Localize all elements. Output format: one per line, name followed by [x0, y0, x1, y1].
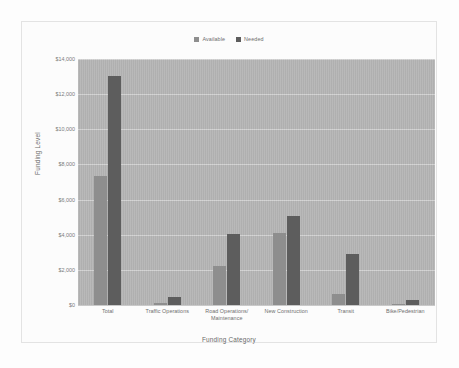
- bar-group: [197, 59, 257, 305]
- x-axis-tick-label: New Construction: [257, 308, 317, 323]
- bar-needed: [108, 76, 121, 305]
- bar-available: [213, 266, 226, 305]
- legend-label-available: Available: [202, 36, 225, 42]
- legend-entry-needed: Needed: [236, 36, 263, 42]
- y-axis-tick-labels: $0$2,000$4,000$6,000$8,000$10,000$12,000…: [22, 59, 75, 305]
- bar-group: [376, 59, 436, 305]
- bar-group: [78, 59, 138, 305]
- x-axis-tick-label: Transit: [316, 308, 376, 323]
- bar-needed: [346, 254, 359, 305]
- y-axis-tick-label: $4,000: [27, 232, 75, 238]
- x-axis-tick-label: Bike/Pedestrian: [376, 308, 436, 323]
- y-axis-tick-label: $10,000: [27, 126, 75, 132]
- y-axis-tick-label: $0: [27, 302, 75, 308]
- x-axis-tick-labels: TotalTraffic OperationsRoad Operations/ …: [78, 308, 435, 323]
- x-axis-tick-label: Total: [78, 308, 138, 323]
- legend-label-needed: Needed: [244, 36, 263, 42]
- y-axis-tick-label: $12,000: [27, 91, 75, 97]
- bar-available: [332, 294, 345, 305]
- bar-available: [94, 176, 107, 305]
- bar-group: [257, 59, 317, 305]
- chart-frame: Available Needed Funding Level $0$2,000$…: [21, 21, 437, 343]
- y-axis-tick-label: $2,000: [27, 267, 75, 273]
- bar-needed: [287, 216, 300, 305]
- bar-chart: Available Needed Funding Level $0$2,000$…: [0, 0, 459, 368]
- x-axis-tick-label: Traffic Operations: [138, 308, 198, 323]
- y-axis-tick-label: $14,000: [27, 56, 75, 62]
- bar-needed: [227, 234, 240, 305]
- y-axis-tick-label: $8,000: [27, 161, 75, 167]
- y-axis-tick-label: $6,000: [27, 197, 75, 203]
- plot-area: [78, 59, 435, 305]
- x-axis-tick-label: Road Operations/ Maintenance: [197, 308, 257, 323]
- bar-needed: [168, 297, 181, 305]
- legend-swatch-needed: [236, 37, 241, 42]
- x-axis-line: [78, 305, 435, 306]
- x-axis-title: Funding Category: [22, 336, 436, 343]
- bar-group: [138, 59, 198, 305]
- bar-group: [316, 59, 376, 305]
- chart-legend: Available Needed: [22, 36, 436, 42]
- legend-swatch-available: [194, 37, 199, 42]
- bars-layer: [78, 59, 435, 305]
- bar-available: [273, 233, 286, 305]
- legend-entry-available: Available: [194, 36, 225, 42]
